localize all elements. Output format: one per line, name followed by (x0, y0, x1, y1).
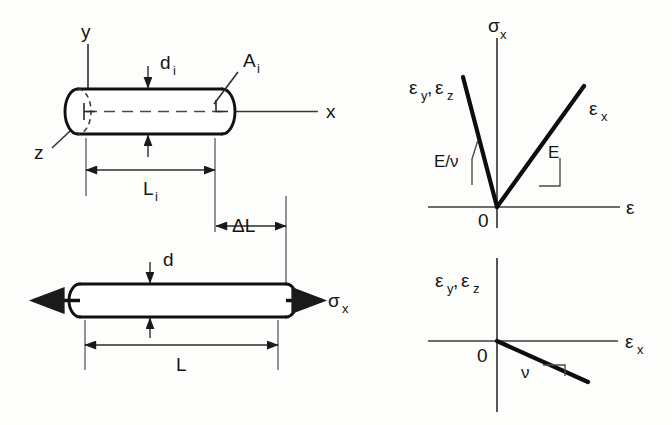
axis-x-label: x (326, 101, 336, 122)
chart-lower-y-axis-label2: ε (461, 270, 470, 291)
chart-stress-strain: σ x ε 0 ε y , ε z ε x E/ν E (409, 15, 635, 231)
length-label: L (143, 178, 154, 199)
chart-lower-y-axis-comma: , (453, 270, 458, 291)
chart-lower-origin-label: 0 (477, 345, 488, 366)
chart-lower-x-axis-label: ε (625, 331, 634, 352)
chart-upper-series-x-label-sub: x (601, 109, 608, 124)
chart-poisson-ratio: ε y , ε z ε x 0 ν (428, 258, 644, 412)
axial-stress-label: σ (328, 290, 340, 311)
chart-upper-slope-label-yz: E/ν (434, 152, 459, 171)
axial-stress-label-subscript: x (342, 301, 349, 316)
panel-deformed-bar: ΔL d L σ x (34, 196, 349, 375)
area-label: A (243, 50, 256, 71)
panel-undeformed-bar: y x z d i A i L i (34, 21, 336, 232)
chart-lower-y-axis-label: ε (435, 270, 444, 291)
deformed-cylinder-fill (69, 284, 297, 317)
engineering-figure: y x z d i A i L i ΔL d L σ x (0, 0, 672, 425)
chart-upper-series-epsilon-x (497, 86, 584, 207)
axis-z-label: z (34, 142, 44, 163)
chart-lower-y-axis-label2-sub: z (473, 281, 480, 296)
chart-upper-series-epsilon-yz (463, 77, 497, 207)
slope-marker-E-over-nu (472, 140, 478, 185)
chart-lower-series-poisson (497, 341, 588, 382)
deformed-diameter-label: d (163, 249, 174, 270)
chart-upper-series-yz-comma: , (427, 77, 432, 98)
chart-upper-y-axis-label: σ (488, 15, 500, 36)
chart-upper-series-z-label: ε (435, 77, 444, 98)
elongation-label: ΔL (232, 215, 255, 236)
area-label-subscript: i (257, 61, 260, 76)
axis-y-label: y (81, 21, 91, 42)
chart-upper-x-axis-label: ε (626, 197, 635, 218)
diameter-label: d (160, 52, 171, 73)
chart-lower-x-axis-label-sub: x (637, 342, 644, 357)
length-label-subscript: i (155, 189, 158, 204)
deformed-length-label: L (176, 354, 187, 375)
diameter-label-subscript: i (173, 63, 176, 78)
chart-upper-y-axis-label-subscript: x (500, 27, 507, 42)
chart-upper-slope-label-x: E (548, 143, 559, 162)
chart-lower-slope-label: ν (521, 363, 530, 382)
chart-upper-series-x-label: ε (589, 98, 598, 119)
chart-upper-series-z-label-sub: z (447, 88, 454, 103)
slope-marker-E (539, 158, 560, 186)
chart-upper-series-yz-label: ε (409, 77, 418, 98)
chart-upper-origin-label: 0 (478, 210, 489, 231)
figure-canvas: y x z d i A i L i ΔL d L σ x (0, 0, 672, 425)
